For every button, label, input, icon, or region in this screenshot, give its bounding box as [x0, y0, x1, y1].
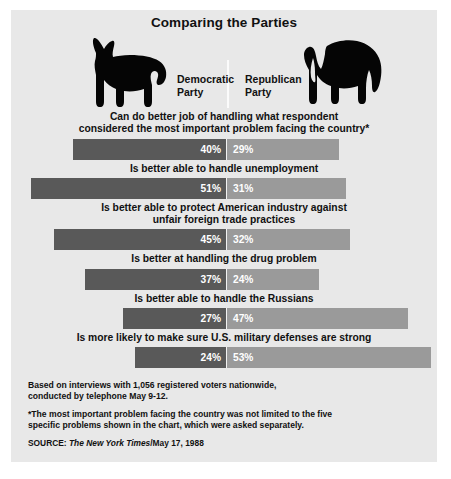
- bar-track: 24%53%: [11, 347, 437, 368]
- bar-republican: 29%: [227, 139, 339, 160]
- source-label: SOURCE:: [28, 438, 69, 448]
- row-question-label: Is more likely to make sure U.S. militar…: [11, 329, 437, 347]
- row-question-label: Is better able to handle unemployment: [11, 160, 437, 178]
- row-question-label: Is better able to handle the Russians: [11, 290, 437, 308]
- chart-row: Is better able to handle the Russians27%…: [11, 290, 437, 329]
- bar-republican: 24%: [227, 269, 319, 290]
- chart-row: Is more likely to make sure U.S. militar…: [11, 329, 437, 368]
- bar-democratic: 51%: [31, 178, 227, 199]
- legend-republican-party: Republican Party: [245, 73, 302, 98]
- row-question-label: Is better at handling the drug problem: [11, 250, 437, 268]
- chart-footer: Based on interviews with 1,056 registere…: [28, 380, 424, 448]
- chart-rows: Can do better job of handling what respo…: [11, 108, 437, 368]
- chart-header: Comparing the Parties Democratic Party R…: [11, 10, 437, 108]
- bar-democratic: 37%: [85, 269, 227, 290]
- methodology-note: Based on interviews with 1,056 registere…: [28, 380, 424, 402]
- row-question-label: Can do better job of handling what respo…: [11, 108, 437, 139]
- bar-democratic: 27%: [123, 308, 227, 329]
- source-date: /May 17, 1988: [150, 438, 204, 448]
- chart-row: Is better able to handle unemployment51%…: [11, 160, 437, 199]
- legend-democratic-party: Democratic Party: [177, 73, 234, 98]
- bar-track: 27%47%: [11, 308, 437, 329]
- infographic-panel: Comparing the Parties Democratic Party R…: [11, 10, 437, 462]
- row-question-label: Is better able to protect American indus…: [11, 199, 437, 230]
- chart-row: Is better at handling the drug problem37…: [11, 250, 437, 289]
- source-line: SOURCE: The New York Times/May 17, 1988: [28, 438, 424, 448]
- bar-republican: 53%: [227, 347, 431, 368]
- bar-democratic: 45%: [54, 229, 227, 250]
- asterisk-note: *The most important problem facing the c…: [28, 409, 424, 431]
- bar-republican: 32%: [227, 229, 350, 250]
- source-publication: The New York Times: [69, 438, 150, 448]
- bar-democratic: 40%: [73, 139, 227, 160]
- bar-track: 40%29%: [11, 139, 437, 160]
- bar-republican: 47%: [227, 308, 408, 329]
- bar-track: 37%24%: [11, 269, 437, 290]
- chart-row: Can do better job of handling what respo…: [11, 108, 437, 160]
- bar-track: 45%32%: [11, 229, 437, 250]
- chart-row: Is better able to protect American indus…: [11, 199, 437, 251]
- elephant-silhouette-icon: [297, 24, 385, 108]
- bar-track: 51%31%: [11, 178, 437, 199]
- bar-democratic: 24%: [135, 347, 227, 368]
- bar-republican: 31%: [227, 178, 346, 199]
- donkey-silhouette-icon: [86, 37, 178, 109]
